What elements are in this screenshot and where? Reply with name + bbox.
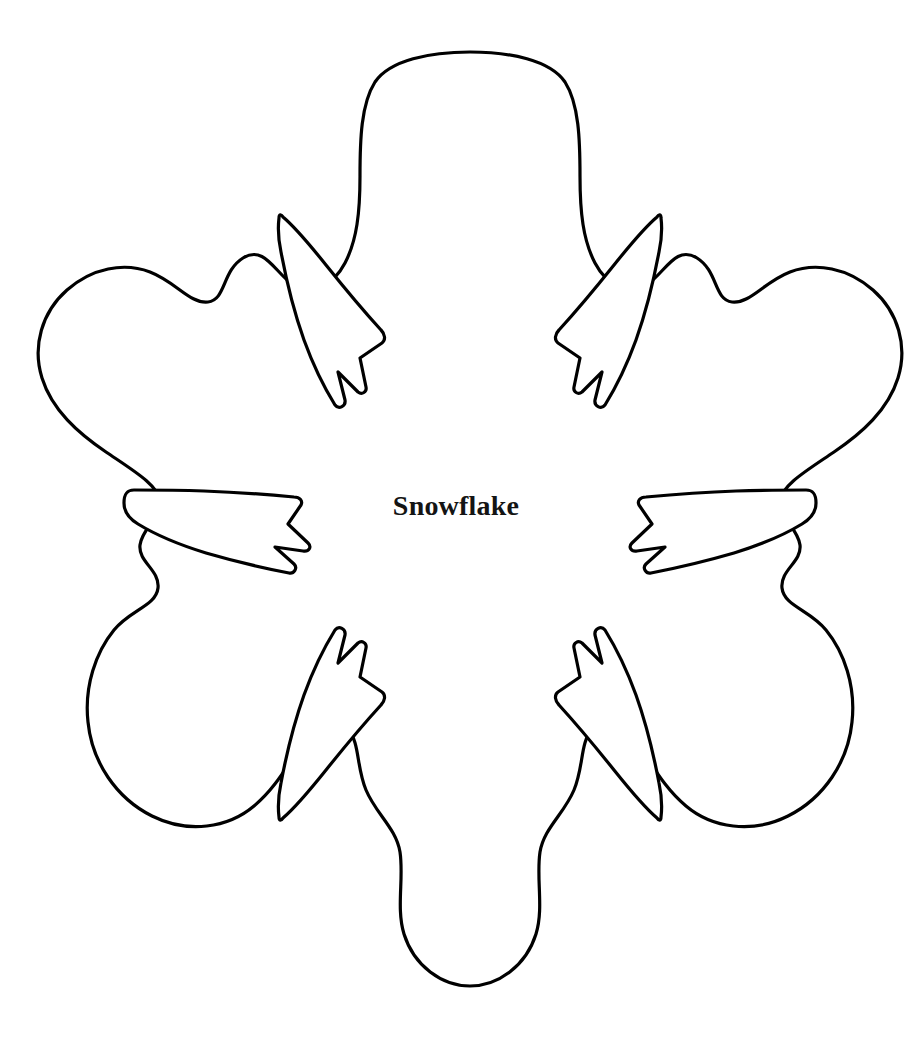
page-title: Snowflake	[0, 489, 912, 523]
snowflake-template-page: Snowflake	[0, 0, 912, 1055]
snowflake-outline-figure	[0, 0, 912, 1055]
